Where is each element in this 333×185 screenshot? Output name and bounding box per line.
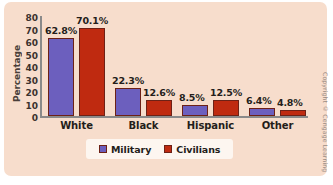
y-tick-40: 40	[22, 64, 38, 73]
value-label-military-black: 22.3%	[112, 76, 144, 86]
bar-military-other[interactable]	[249, 108, 275, 116]
bar-group-hispanic: 8.5%12.5%	[180, 16, 241, 116]
x-axis-line	[40, 116, 308, 118]
bar-civilians-hispanic[interactable]	[213, 100, 239, 116]
value-label-civilians-other: 4.8%	[277, 98, 303, 108]
value-label-military-hispanic: 8.5%	[179, 93, 205, 103]
bar-military-white[interactable]	[48, 38, 74, 117]
category-label-black: Black	[113, 120, 174, 131]
value-label-civilians-hispanic: 12.5%	[210, 88, 242, 98]
legend-item-civilians: Civilians	[164, 144, 220, 155]
copyright-notice: Copyright © Cengage Learning	[319, 72, 331, 176]
y-tick-60: 60	[22, 39, 38, 48]
y-axis-line	[40, 16, 42, 118]
y-tick-10: 10	[22, 101, 38, 110]
bar-group-black: 22.3%12.6%	[113, 16, 174, 116]
legend-label-civilians: Civilians	[176, 144, 220, 155]
bar-military-hispanic[interactable]	[182, 105, 208, 116]
chart-figure: Percentage 01020304050607080 62.8%70.1%2…	[0, 0, 333, 185]
value-label-civilians-black: 12.6%	[143, 88, 175, 98]
legend-label-military: Military	[111, 144, 151, 155]
y-tick-70: 70	[22, 26, 38, 35]
y-tick-0: 0	[22, 114, 38, 123]
legend-swatch-military-icon	[99, 145, 107, 153]
bar-military-black[interactable]	[115, 88, 141, 116]
legend-item-military: Military	[99, 144, 151, 155]
bar-civilians-black[interactable]	[146, 100, 172, 116]
plot-area: 62.8%70.1%22.3%12.6%8.5%12.5%6.4%4.8%	[40, 16, 308, 118]
value-label-military-other: 6.4%	[246, 96, 272, 106]
bar-group-other: 6.4%4.8%	[247, 16, 308, 116]
value-label-military-white: 62.8%	[45, 26, 77, 36]
category-label-other: Other	[247, 120, 308, 131]
bar-civilians-other[interactable]	[280, 110, 306, 116]
value-label-civilians-white: 70.1%	[76, 16, 108, 26]
y-tick-30: 30	[22, 76, 38, 85]
y-tick-50: 50	[22, 51, 38, 60]
legend-swatch-civilians-icon	[164, 145, 172, 153]
category-label-hispanic: Hispanic	[180, 120, 241, 131]
x-axis-category-labels: WhiteBlackHispanicOther	[40, 120, 308, 134]
y-axis-tick-labels: 01020304050607080	[22, 14, 38, 118]
y-tick-20: 20	[22, 89, 38, 98]
category-label-white: White	[46, 120, 107, 131]
bar-group-white: 62.8%70.1%	[46, 16, 107, 116]
chart-legend: Military Civilians	[86, 139, 233, 159]
y-tick-80: 80	[22, 14, 38, 23]
bar-civilians-white[interactable]	[79, 28, 105, 116]
